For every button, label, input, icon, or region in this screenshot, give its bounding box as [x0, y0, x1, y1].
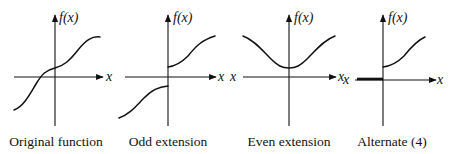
caption-odd: Odd extension — [129, 134, 208, 149]
panel-original-function: f(x) x Original function — [9, 10, 113, 149]
x-axis-label-left: x — [229, 69, 237, 84]
alternate-curve — [383, 37, 425, 67]
caption-original: Original function — [9, 134, 103, 149]
panel-alternate: f(x) x x Alternate (4) — [342, 10, 444, 149]
odd-upper-branch — [168, 36, 215, 67]
panel-even-extension: f(x) x x Even extension — [229, 10, 345, 149]
y-axis-label: f(x) — [388, 10, 408, 26]
x-axis-label-left: x — [342, 72, 350, 87]
x-axis-label-right: x — [436, 72, 444, 87]
function-extension-diagram: f(x) x Original function f(x) x Odd exte… — [0, 0, 453, 154]
odd-lower-branch — [119, 86, 168, 118]
caption-alternate: Alternate (4) — [357, 134, 426, 149]
caption-even: Even extension — [248, 134, 331, 149]
y-axis-label: f(x) — [173, 10, 193, 26]
x-axis-label: x — [105, 69, 113, 84]
panel-odd-extension: f(x) x Odd extension — [119, 10, 225, 149]
x-axis-label-right: x — [217, 69, 225, 84]
y-axis-label: f(x) — [294, 10, 314, 26]
original-curve — [14, 37, 100, 110]
y-axis-label: f(x) — [59, 10, 79, 26]
